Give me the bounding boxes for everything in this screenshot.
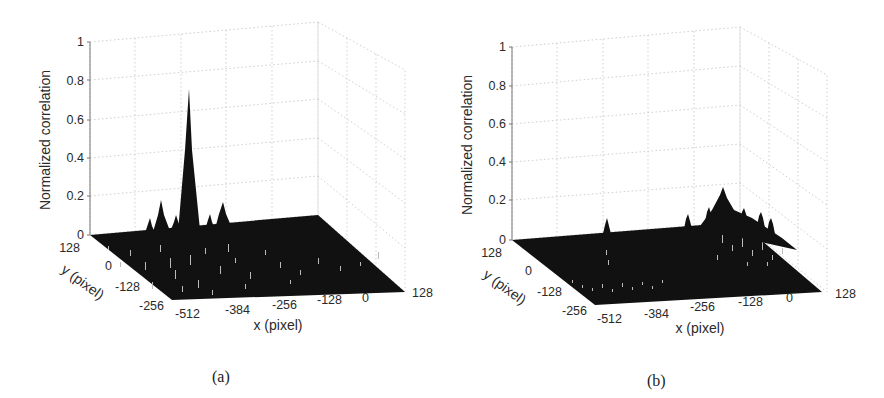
- z-tick-0: 0: [499, 233, 506, 247]
- surface-plot-a: 1 0.8 0.6 0.4 0.2 0 Normalized correlati…: [0, 0, 442, 398]
- y-tick-neg256: -256: [562, 304, 587, 318]
- x-tick-neg128: -128: [317, 293, 342, 307]
- y-tick-neg128: -128: [115, 280, 140, 294]
- x-tick-neg512: -512: [597, 312, 622, 326]
- z-tick-1: 1: [77, 35, 84, 49]
- z-tick-0.8: 0.8: [489, 79, 506, 93]
- z-axis-label: Normalized correlation: [459, 75, 475, 215]
- z-tick-0.4: 0.4: [489, 155, 506, 169]
- z-axis-label: Normalized correlation: [37, 70, 53, 210]
- z-tick-0: 0: [77, 228, 84, 242]
- panel-a: 1 0.8 0.6 0.4 0.2 0 Normalized correlati…: [0, 0, 442, 398]
- x-tick-neg256: -256: [690, 300, 715, 314]
- y-tick-neg128: -128: [537, 285, 562, 299]
- x-tick-128: 128: [835, 287, 856, 301]
- caption-b: (b): [647, 372, 666, 390]
- surface-plot-b: 1 0.8 0.6 0.4 0.2 0 Normalized correlati…: [422, 0, 884, 398]
- x-axis-label: x (pixel): [253, 317, 302, 333]
- x-tick-neg384: -384: [225, 303, 250, 317]
- caption-a: (a): [212, 368, 230, 386]
- panel-b: 1 0.8 0.6 0.4 0.2 0 Normalized correlati…: [422, 0, 864, 398]
- z-tick-0.4: 0.4: [67, 151, 84, 165]
- correlation-peaks: [145, 89, 232, 233]
- y-tick-0: 0: [105, 259, 112, 273]
- x-tick-neg128: -128: [738, 295, 763, 309]
- z-tick-0.2: 0.2: [489, 193, 506, 207]
- z-tick-0.2: 0.2: [67, 189, 84, 203]
- y-axis-label: y (pixel): [480, 266, 529, 308]
- z-tick-0.6: 0.6: [67, 113, 84, 127]
- x-tick-neg512: -512: [175, 307, 200, 321]
- y-axis-label: y (pixel): [58, 261, 107, 303]
- y-tick-0: 0: [525, 264, 532, 278]
- x-axis-label: x (pixel): [675, 320, 724, 336]
- x-tick-0: 0: [362, 291, 369, 305]
- x-tick-0: 0: [786, 291, 793, 305]
- z-tick-0.8: 0.8: [67, 74, 84, 88]
- y-tick-neg256: -256: [139, 299, 164, 313]
- z-tick-1: 1: [499, 40, 506, 54]
- x-tick-neg384: -384: [644, 307, 669, 321]
- y-tick-128: 128: [59, 241, 80, 255]
- x-tick-neg256: -256: [272, 298, 297, 312]
- z-tick-0.6: 0.6: [489, 117, 506, 131]
- y-tick-128: 128: [481, 246, 502, 260]
